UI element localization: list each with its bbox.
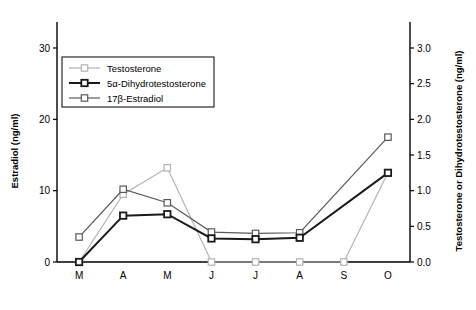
series-marker [76, 259, 82, 265]
series-marker [385, 170, 391, 176]
series-marker [164, 165, 170, 171]
series-marker [341, 259, 347, 265]
series-marker [120, 186, 126, 192]
x-axis-tick-label: J [209, 270, 214, 281]
chart-canvas: 01020300.00.51.01.52.02.53.0MAMJJASOEstr… [0, 0, 476, 310]
right-axis-tick-label: 1.0 [417, 185, 431, 196]
series-marker [120, 212, 126, 218]
legend-label: Testosterone [107, 63, 161, 74]
right-axis-tick-label: 0.5 [417, 221, 431, 232]
series-marker [385, 134, 391, 140]
chart-figure: 01020300.00.51.01.52.02.53.0MAMJJASOEstr… [0, 0, 476, 310]
left-axis-tick-label: 20 [39, 114, 51, 125]
x-axis-tick-label: M [75, 270, 83, 281]
x-axis-tick-label: J [253, 270, 258, 281]
right-axis-tick-label: 2.5 [417, 78, 431, 89]
legend-marker [81, 80, 87, 86]
series-marker [296, 235, 302, 241]
x-axis-tick-label: O [384, 270, 392, 281]
right-axis-tick-label: 0.0 [417, 257, 431, 268]
series-marker [208, 229, 214, 235]
series-marker [164, 200, 170, 206]
x-axis-tick-label: M [163, 270, 171, 281]
left-axis-title: Estradiol (ng/ml) [9, 114, 20, 189]
series-marker [76, 234, 82, 240]
series-marker [252, 236, 258, 242]
series-17-estradiol [76, 134, 391, 240]
series-5-dihydrotestosterone [76, 170, 391, 266]
series-marker [208, 259, 214, 265]
x-axis-tick-label: A [296, 270, 303, 281]
series-marker [296, 259, 302, 265]
series-marker [164, 211, 170, 217]
left-axis-tick-label: 30 [39, 43, 51, 54]
legend-label: 5α-Dihydrotestosterone [107, 78, 206, 89]
right-axis-tick-label: 3.0 [417, 43, 431, 54]
series-marker [208, 235, 214, 241]
x-axis-tick-label: A [120, 270, 127, 281]
left-axis-tick-label: 10 [39, 185, 51, 196]
series-marker [252, 259, 258, 265]
right-axis-tick-label: 1.5 [417, 150, 431, 161]
left-axis-tick-label: 0 [44, 257, 50, 268]
right-axis-title: Testosterone or Dihydrotestosterone (ng/… [453, 51, 464, 252]
legend-marker [81, 95, 87, 101]
x-axis-tick-label: S [340, 270, 347, 281]
legend-marker [81, 65, 87, 71]
legend-label: 17β-Estradiol [107, 93, 163, 104]
right-axis-tick-label: 2.0 [417, 114, 431, 125]
